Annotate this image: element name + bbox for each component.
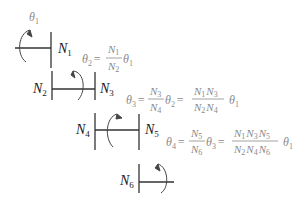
svg-text:θ2=: θ2= [82,52,101,68]
svg-text:N2: N2 [107,60,119,74]
svg-text:θ4=: θ4= [166,135,185,151]
svg-text:θ1: θ1 [123,52,133,68]
gear-label-n1: N1 [57,41,72,58]
svg-text:N1N3: N1N3 [193,85,218,99]
svg-text:N1N3N5: N1N3N5 [233,127,270,141]
svg-text:N3: N3 [149,85,161,99]
svg-text:N5: N5 [190,127,202,141]
svg-text:θ1: θ1 [229,93,239,109]
equation-theta3: θ3= N3 N4 θ2= N1N3 N2N4 θ1 [126,85,239,115]
svg-text:θ1: θ1 [283,135,293,151]
gear-label-n2: N2 [32,81,47,98]
gear-label-n4: N4 [75,122,90,139]
gear-label-n3: N3 [99,81,114,98]
gear-label-n6: N6 [119,173,134,190]
gear-label-n5: N5 [144,122,159,139]
equation-theta2: θ2= N1 N2 θ1 [82,43,133,74]
svg-text:N4: N4 [149,101,161,115]
svg-text:θ3=: θ3= [206,135,225,151]
svg-text:N2N4: N2N4 [193,101,218,115]
equation-theta4: θ4= N5 N6 θ3= N1N3N5 N2N4N6 θ1 [166,127,293,157]
svg-text:θ2=: θ2= [165,93,184,109]
theta1-label: θ1 [29,10,39,26]
svg-text:N6: N6 [190,143,202,157]
svg-text:θ3=: θ3= [126,93,145,109]
svg-text:N2N4N6: N2N4N6 [233,143,270,157]
gear-train-diagram: θ1 N1 N2 N3 N4 N5 N6 θ2= N1 N2 θ1 θ3= N3… [0,0,304,198]
svg-text:N1: N1 [107,43,119,57]
